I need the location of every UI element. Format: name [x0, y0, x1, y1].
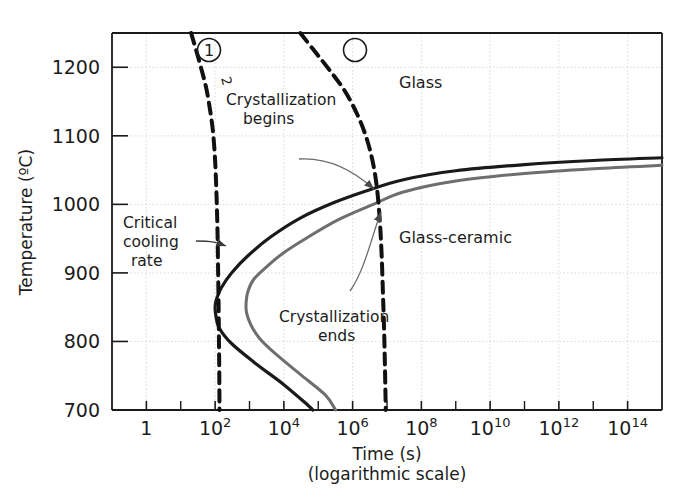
crystallization-begins-line2: begins	[243, 110, 294, 128]
x-axis-subtitle: (logarithmic scale)	[308, 464, 467, 484]
y-axis-tick-label: 700	[64, 399, 100, 421]
plot-area	[112, 33, 662, 410]
x-axis-tick-label: 1	[140, 417, 152, 439]
critical-cooling-line3: rate	[131, 252, 162, 270]
y-axis-tick-label: 1000	[52, 193, 100, 215]
y-axis-title: Temperature (ºC)	[16, 149, 36, 296]
y-axis-tick-label: 900	[64, 262, 100, 284]
region-label-glass-ceramic: Glass-ceramic	[399, 228, 512, 247]
curve-number-2-label: 1	[204, 41, 214, 60]
ttt-diagram-svg: 1102104106108101010121014 12001100100090…	[0, 0, 682, 500]
critical-cooling-line1: Critical	[123, 214, 177, 232]
y-axis-tick-label: 800	[64, 330, 100, 352]
y-axis-tick-label: 1200	[52, 56, 100, 78]
crystallization-ends-line2: ends	[318, 327, 355, 345]
chart-figure: 1102104106108101010121014 12001100100090…	[0, 0, 682, 500]
crystallization-ends-line1: Crystallization	[279, 308, 389, 326]
y-axis-tick-label: 1100	[52, 125, 100, 147]
region-label-glass: Glass	[399, 73, 442, 92]
crystallization-begins-line1: Crystallization	[226, 91, 336, 109]
x-axis-title: Time (s)	[351, 444, 421, 464]
critical-cooling-line2: cooling	[123, 233, 179, 251]
